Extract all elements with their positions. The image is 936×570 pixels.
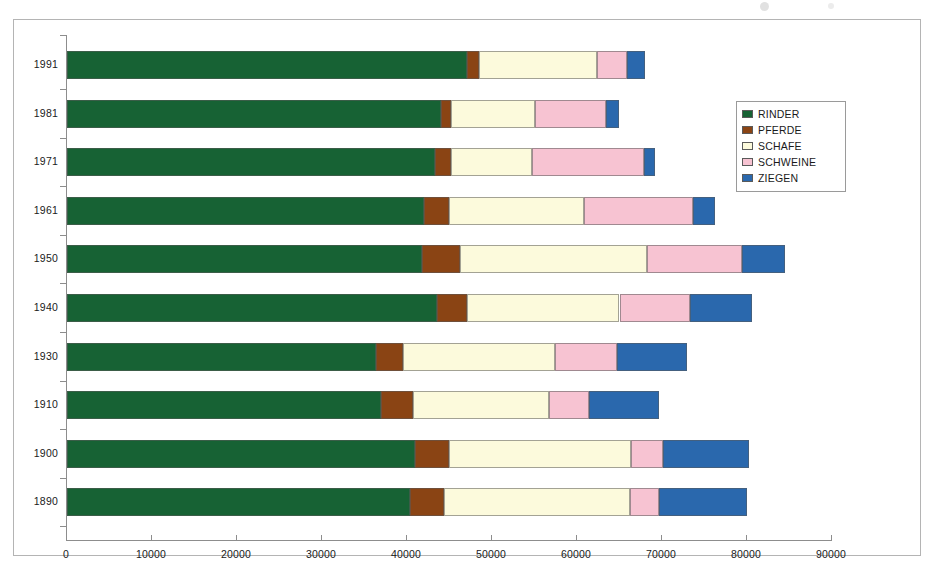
category-axis-tick bbox=[60, 478, 67, 479]
bar-segment-schweine[interactable] bbox=[647, 245, 742, 273]
legend-swatch-icon bbox=[742, 142, 753, 150]
bar-segment-pferde[interactable] bbox=[376, 343, 403, 371]
value-axis-tick bbox=[661, 535, 662, 541]
legend-swatch-icon bbox=[742, 158, 753, 166]
category-axis-label: 1950 bbox=[14, 252, 58, 264]
bar-segment-pferde[interactable] bbox=[415, 440, 449, 468]
bar-segment-rinder[interactable] bbox=[67, 51, 467, 79]
bar-segment-schafe[interactable] bbox=[403, 343, 555, 371]
bar-segment-ziegen[interactable] bbox=[606, 100, 619, 128]
value-axis-tick bbox=[491, 535, 492, 541]
category-axis-tick bbox=[60, 429, 67, 430]
legend-item-rinder[interactable]: RINDER bbox=[742, 106, 840, 121]
bar-segment-schweine[interactable] bbox=[535, 100, 606, 128]
bar-segment-pferde[interactable] bbox=[381, 391, 413, 419]
bar-segment-ziegen[interactable] bbox=[627, 51, 645, 79]
legend-label: PFERDE bbox=[758, 124, 802, 136]
stacked-bar-chart: 1991198119711961195019401930191019001890… bbox=[14, 20, 922, 557]
category-axis-tick bbox=[60, 186, 67, 187]
legend-swatch-icon bbox=[742, 110, 753, 118]
legend-item-schweine[interactable]: SCHWEINE bbox=[742, 154, 840, 169]
bar-segment-ziegen[interactable] bbox=[617, 343, 688, 371]
category-axis-tick bbox=[60, 283, 67, 284]
bar-segment-ziegen[interactable] bbox=[659, 488, 747, 516]
value-axis-tick bbox=[576, 535, 577, 541]
legend-label: SCHAFE bbox=[758, 140, 802, 152]
bar-segment-schweine[interactable] bbox=[597, 51, 628, 79]
legend-item-schafe[interactable]: SCHAFE bbox=[742, 138, 840, 153]
value-axis-tick-label: 0 bbox=[63, 548, 69, 560]
bar-segment-ziegen[interactable] bbox=[742, 245, 785, 273]
bar-segment-schafe[interactable] bbox=[449, 440, 632, 468]
bar-segment-pferde[interactable] bbox=[424, 197, 449, 225]
bar-segment-ziegen[interactable] bbox=[690, 294, 752, 322]
bar-segment-pferde[interactable] bbox=[435, 148, 451, 176]
value-axis-tick-label: 70000 bbox=[646, 548, 676, 560]
bar-segment-rinder[interactable] bbox=[67, 100, 441, 128]
category-axis-tick bbox=[60, 138, 67, 139]
legend-label: SCHWEINE bbox=[758, 156, 816, 168]
chart-frame: 1991198119711961195019401930191019001890… bbox=[13, 19, 921, 556]
bar-segment-schafe[interactable] bbox=[467, 294, 619, 322]
legend-swatch-icon bbox=[742, 174, 753, 182]
category-axis-tick bbox=[60, 332, 67, 333]
category-axis-tick bbox=[60, 35, 67, 36]
chart-legend: RINDERPFERDESCHAFESCHWEINEZIEGEN bbox=[736, 101, 846, 192]
bar-segment-schweine[interactable] bbox=[630, 488, 660, 516]
bar-segment-rinder[interactable] bbox=[67, 391, 381, 419]
category-axis-label: 1900 bbox=[14, 447, 58, 459]
bar-segment-pferde[interactable] bbox=[422, 245, 459, 273]
value-axis-tick bbox=[236, 535, 237, 541]
value-axis-tick bbox=[321, 535, 322, 541]
bar-segment-pferde[interactable] bbox=[441, 100, 451, 128]
value-axis-tick-label: 20000 bbox=[221, 548, 251, 560]
legend-item-pferde[interactable]: PFERDE bbox=[742, 122, 840, 137]
bar-segment-rinder[interactable] bbox=[67, 197, 424, 225]
bar-segment-schweine[interactable] bbox=[532, 148, 644, 176]
value-axis-tick-label: 10000 bbox=[136, 548, 166, 560]
bar-segment-schafe[interactable] bbox=[449, 197, 584, 225]
bar-segment-schweine[interactable] bbox=[549, 391, 589, 419]
bar-segment-ziegen[interactable] bbox=[644, 148, 655, 176]
bar-segment-rinder[interactable] bbox=[67, 343, 376, 371]
bar-segment-pferde[interactable] bbox=[467, 51, 480, 79]
bar-segment-schweine[interactable] bbox=[620, 294, 691, 322]
bar-segment-rinder[interactable] bbox=[67, 294, 437, 322]
value-axis-tick bbox=[831, 535, 832, 541]
bar-segment-ziegen[interactable] bbox=[663, 440, 749, 468]
bar-segment-rinder[interactable] bbox=[67, 440, 415, 468]
bar-segment-rinder[interactable] bbox=[67, 148, 435, 176]
bar-segment-schafe[interactable] bbox=[444, 488, 629, 516]
category-axis-label: 1961 bbox=[14, 204, 58, 216]
bar-segment-schafe[interactable] bbox=[451, 148, 532, 176]
bar-segment-schafe[interactable] bbox=[451, 100, 535, 128]
legend-item-ziegen[interactable]: ZIEGEN bbox=[742, 170, 840, 185]
bar-segment-schafe[interactable] bbox=[479, 51, 596, 79]
value-axis-tick bbox=[151, 535, 152, 541]
category-axis-label: 1930 bbox=[14, 350, 58, 362]
value-axis-tick-label: 40000 bbox=[391, 548, 421, 560]
category-axis-tick bbox=[60, 526, 67, 527]
category-axis-label: 1991 bbox=[14, 58, 58, 70]
bar-segment-rinder[interactable] bbox=[67, 245, 422, 273]
bar-segment-ziegen[interactable] bbox=[589, 391, 660, 419]
bar-segment-schafe[interactable] bbox=[413, 391, 549, 419]
category-axis-tick bbox=[60, 235, 67, 236]
bar-segment-schweine[interactable] bbox=[631, 440, 662, 468]
value-axis-tick-label: 30000 bbox=[306, 548, 336, 560]
category-axis-label: 1981 bbox=[14, 107, 58, 119]
category-axis-tick bbox=[60, 89, 67, 90]
bar-segment-pferde[interactable] bbox=[437, 294, 468, 322]
bar-segment-pferde[interactable] bbox=[410, 488, 445, 516]
bar-segment-schafe[interactable] bbox=[460, 245, 647, 273]
category-axis-label: 1910 bbox=[14, 398, 58, 410]
category-axis-label: 1940 bbox=[14, 301, 58, 313]
bar-segment-rinder[interactable] bbox=[67, 488, 410, 516]
value-axis-tick-label: 80000 bbox=[731, 548, 761, 560]
category-axis-tick bbox=[60, 381, 67, 382]
category-axis-label: 1890 bbox=[14, 495, 58, 507]
value-axis-tick-label: 50000 bbox=[476, 548, 506, 560]
bar-segment-ziegen[interactable] bbox=[693, 197, 715, 225]
bar-segment-schweine[interactable] bbox=[584, 197, 693, 225]
bar-segment-schweine[interactable] bbox=[555, 343, 617, 371]
